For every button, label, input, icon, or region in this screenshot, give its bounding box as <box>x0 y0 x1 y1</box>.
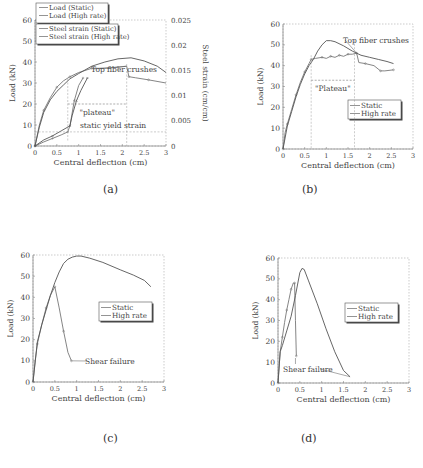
chart-a: 00.511.522.53010203040506000.0050.010.01… <box>8 3 210 167</box>
y-tick-label: 10 <box>265 358 275 367</box>
y-axis-label: Load (kN) <box>6 299 15 337</box>
legend-label: Steel strain (Static) <box>49 25 117 33</box>
x-tick-label: 2.5 <box>137 385 147 393</box>
x-tick-label: 2.5 <box>139 149 149 157</box>
y2-tick-label: 0.005 <box>171 117 191 125</box>
y-tick-label: 20 <box>270 103 280 112</box>
y-tick-label: 10 <box>22 121 32 130</box>
y-tick-label: 10 <box>270 124 280 133</box>
caption-c: (c) <box>103 432 118 445</box>
figure-canvas: 00.511.522.53010203040506000.0050.010.01… <box>0 0 423 468</box>
x-tick-label: 0.5 <box>299 152 309 160</box>
caption-b: (b) <box>302 183 318 196</box>
x-tick-label: 0 <box>31 385 35 393</box>
y-tick-label: 60 <box>270 20 280 29</box>
series-line-1 <box>283 41 394 149</box>
y-tick-label: 60 <box>265 254 275 263</box>
y-tick-label: 40 <box>20 293 30 302</box>
caption-a: (a) <box>103 183 118 196</box>
x-tick-label: 0.5 <box>52 149 62 157</box>
y-tick-label: 50 <box>22 37 32 46</box>
y-tick-label: 10 <box>20 356 30 365</box>
y-tick-label: 40 <box>265 295 275 304</box>
x-tick-label: 0.5 <box>295 386 305 394</box>
annotation-plateau: "plateau" <box>80 108 115 117</box>
y-tick-label: 30 <box>270 82 280 91</box>
x-tick-label: 1 <box>75 385 79 393</box>
legend-label: Steel strain (High rate) <box>49 33 130 41</box>
y-axis-label: Load (kN) <box>251 301 260 339</box>
x-axis-label: Central deflection (cm) <box>54 158 148 167</box>
legend-label: Load (Static) <box>49 4 94 12</box>
legend-label: High rate <box>358 312 393 321</box>
annotation-yield-strain: static yield strain <box>80 121 146 130</box>
y2-tick-label: 0.015 <box>171 67 191 75</box>
x-tick-label: 2.5 <box>382 386 392 394</box>
x-axis-label: Central deflection (cm) <box>301 161 395 170</box>
x-tick-label: 3 <box>407 386 411 394</box>
y-tick-label: 30 <box>265 316 275 325</box>
y-tick-label: 0 <box>275 145 280 154</box>
y-tick-label: 40 <box>22 58 32 67</box>
x-tick-label: 0 <box>276 386 280 394</box>
x-tick-label: 2 <box>120 149 124 157</box>
x-tick-label: 1.5 <box>93 385 103 393</box>
series-line-0 <box>33 287 71 382</box>
series-line-0 <box>35 66 166 146</box>
x-tick-label: 0 <box>281 152 285 160</box>
x-tick-label: 2 <box>118 385 122 393</box>
x-tick-label: 1 <box>324 152 328 160</box>
x-tick-label: 1.5 <box>95 149 105 157</box>
y-tick-label: 30 <box>20 314 30 323</box>
x-tick-label: 1.5 <box>343 152 353 160</box>
x-axis-label: Central deflection (cm) <box>52 394 146 403</box>
x-tick-label: 1 <box>77 149 81 157</box>
legend-label: High rate <box>361 109 396 118</box>
x-tick-label: 1.5 <box>338 386 348 394</box>
x-tick-label: 2 <box>368 152 372 160</box>
annotation-label: Shear failure <box>283 365 333 374</box>
x-tick-label: 0.5 <box>50 385 60 393</box>
series-line-2 <box>35 78 83 146</box>
y-tick-label: 50 <box>20 272 30 281</box>
annotation-label: Shear failure <box>85 357 135 366</box>
x-tick-label: 2 <box>363 386 367 394</box>
annotation-plateau: "Plateau" <box>315 84 351 93</box>
y-tick-label: 50 <box>270 40 280 49</box>
y-tick-label: 40 <box>270 61 280 70</box>
x-tick-label: 2.5 <box>386 152 396 160</box>
x-tick-label: 0 <box>33 149 37 157</box>
y2-tick-label: 0.01 <box>171 92 187 100</box>
y-axis-label: Load (kN) <box>8 64 17 102</box>
y2-tick-label: 0.02 <box>171 42 187 50</box>
y-tick-label: 60 <box>20 251 30 260</box>
y-tick-label: 60 <box>22 16 32 25</box>
x-axis-label: Central deflection (cm) <box>297 395 391 404</box>
x-tick-label: 1 <box>320 386 324 394</box>
chart-b: 00.511.522.530102030405060Central deflec… <box>256 20 415 171</box>
chart-c: 00.511.522.530102030405060Central deflec… <box>6 251 166 404</box>
legend-label: Load (High rate) <box>49 12 107 20</box>
caption-d: (d) <box>301 432 317 445</box>
y2-tick-label: 0 <box>171 143 175 151</box>
chart-d: 00.511.522.530102030405060Central deflec… <box>251 254 411 405</box>
y-tick-label: 20 <box>20 335 30 344</box>
y-tick-label: 20 <box>22 100 32 109</box>
x-tick-label: 3 <box>411 152 415 160</box>
x-tick-label: 3 <box>164 149 168 157</box>
y-tick-label: 30 <box>22 79 32 88</box>
y-tick-label: 50 <box>265 274 275 283</box>
legend-label: High rate <box>112 311 147 320</box>
annotation-label: Top fiber crushes <box>343 36 409 45</box>
y2-axis-label: Steel strain (cm/cm) <box>201 44 210 121</box>
data-point <box>73 99 75 101</box>
data-point <box>51 137 53 139</box>
x-tick-label: 3 <box>162 385 166 393</box>
y-tick-label: 0 <box>25 378 30 387</box>
y2-tick-label: 0.025 <box>171 17 191 25</box>
y-axis-label: Load (kN) <box>256 67 265 105</box>
y-tick-label: 0 <box>270 379 275 388</box>
y-tick-label: 20 <box>265 337 275 346</box>
y-tick-label: 0 <box>27 142 32 151</box>
